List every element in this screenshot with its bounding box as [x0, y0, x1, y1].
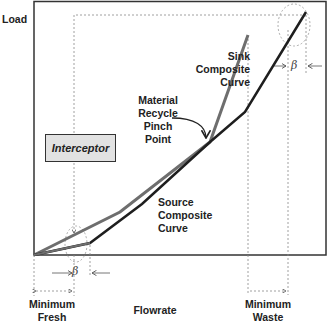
diagram-canvas [0, 0, 328, 325]
source-curve-label: Source Composite Curve [158, 196, 212, 235]
pinch-point-label: Material Recycle Pinch Point [128, 94, 188, 146]
minimum-fresh-label: Minimum Fresh [22, 298, 82, 324]
sink-curve-label: Sink Composite Curve [190, 50, 250, 89]
y-axis-label: Load [2, 13, 27, 26]
beta-label-top: β [291, 59, 297, 72]
x-axis-label: Flowrate [125, 304, 185, 317]
beta-label-bottom: β [72, 265, 78, 278]
interceptor-box: Interceptor [45, 134, 116, 162]
ellipse-min-waste [278, 4, 310, 46]
minimum-waste-label: Minimum Waste [238, 298, 298, 324]
